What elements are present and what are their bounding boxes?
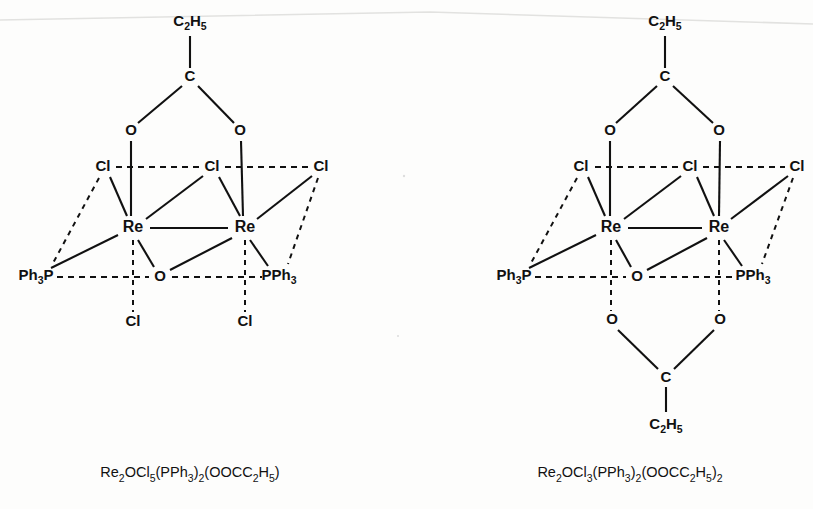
atom-label-chloride-mid: Cl — [683, 157, 698, 174]
bond-chloride-left-phosphine-dashed — [52, 178, 99, 265]
atom-label-chloride-bottom-left: Cl — [126, 312, 141, 329]
bond-chloride-mid-rhenium-left — [624, 176, 681, 219]
atom-label-phosphine-left: Ph3P — [18, 266, 53, 286]
bond-chloride-right-rhenium-right — [731, 176, 788, 219]
atom-label-ethyl-top: C2H5 — [173, 12, 207, 32]
bond-chloride-left-rhenium-left — [588, 177, 605, 216]
atom-label-oxygen-top-right: O — [234, 121, 246, 138]
atom-label-rhenium-right: Re — [709, 218, 730, 235]
bond-chloride-mid-rhenium-right — [697, 177, 714, 216]
atom-label-phosphine-right: PPh3 — [261, 266, 296, 286]
atom-label-ethyl-bottom: C2H5 — [649, 415, 683, 435]
atom-label-oxygen-top-right: O — [713, 121, 725, 138]
bond-carbon-oxygen-top-right — [673, 86, 713, 123]
structure-right: C2H5 C O O Cl Cl Cl Re Re Ph3P O PPh3 O … — [496, 12, 804, 484]
bond-chloride-left-rhenium-left — [110, 177, 127, 216]
bond-oxygen-rhenium-right — [241, 141, 243, 216]
atom-label-rhenium-right: Re — [235, 218, 256, 235]
bond-oxo-rhenium-right — [170, 238, 232, 270]
atom-label-oxo-bridge: O — [154, 267, 166, 284]
atom-label-phosphine-left: Ph3P — [496, 266, 531, 286]
bond-carbon-oxygen-left — [138, 86, 182, 123]
atom-label-carbon-top: C — [185, 67, 196, 84]
chemical-structure-figure: C2H5 C O O Cl Cl Cl Re Re Ph3P O PPh3 Cl… — [0, 0, 813, 509]
structure-left: C2H5 C O O Cl Cl Cl Re Re Ph3P O PPh3 Cl… — [18, 12, 328, 484]
figure-page: C2H5 C O O Cl Cl Cl Re Re Ph3P O PPh3 Cl… — [0, 0, 813, 509]
bond-oxygen-carbon-bottom-left — [618, 330, 658, 369]
bond-carbon-oxygen-right — [198, 86, 234, 123]
scan-speck — [403, 175, 405, 177]
atom-label-oxygen-bottom-left: O — [606, 310, 618, 327]
bond-chloride-mid-rhenium-left — [146, 176, 203, 219]
caption-left-structure: Re2OCl5(PPh3)2(OOCC2H5) — [100, 464, 279, 484]
bond-rhenium-right-phosphine-right — [724, 240, 742, 266]
atom-label-chloride-right: Cl — [790, 157, 805, 174]
atom-label-rhenium-left: Re — [123, 218, 144, 235]
bond-chloride-left-phosphine-dashed — [530, 178, 577, 265]
bond-carbon-oxygen-top-left — [616, 86, 657, 123]
scan-artifact-streak — [0, 12, 813, 24]
atom-label-carbon-bottom: C — [661, 368, 672, 385]
atom-label-oxygen-top-left: O — [125, 121, 137, 138]
atom-label-chloride-left: Cl — [96, 157, 111, 174]
atom-label-chloride-mid: Cl — [205, 157, 220, 174]
scan-speck — [397, 335, 399, 337]
bond-phosphine-left-rhenium-left — [529, 235, 596, 268]
bond-rhenium-left-oxo — [616, 240, 631, 267]
atom-label-carbon-top: C — [660, 67, 671, 84]
bond-rhenium-right-phosphine-right — [250, 240, 268, 266]
bond-oxo-rhenium-right — [647, 238, 707, 270]
bond-chloride-mid-rhenium-right — [219, 177, 240, 216]
bond-phosphine-left-rhenium-left — [51, 235, 118, 268]
atom-label-phosphine-right: PPh3 — [735, 266, 770, 286]
bond-chloride-right-rhenium-right — [257, 176, 312, 219]
atom-label-chloride-bottom-right: Cl — [238, 312, 253, 329]
atom-label-chloride-left: Cl — [574, 157, 589, 174]
bond-oxygen-rhenium-top-right — [719, 141, 720, 216]
atom-label-chloride-right: Cl — [314, 157, 329, 174]
atom-label-oxygen-bottom-right: O — [714, 310, 726, 327]
bond-oxygen-carbon-bottom-right — [674, 330, 714, 369]
atom-label-ethyl-top: C2H5 — [648, 12, 682, 32]
atom-label-oxygen-top-left: O — [604, 121, 616, 138]
caption-right-structure: Re2OCl3(PPh3)2(OOCC2H5)2 — [537, 464, 722, 484]
bond-rhenium-left-oxo — [138, 240, 154, 267]
atom-label-oxo-bridge: O — [631, 267, 643, 284]
atom-label-rhenium-left: Re — [601, 218, 622, 235]
